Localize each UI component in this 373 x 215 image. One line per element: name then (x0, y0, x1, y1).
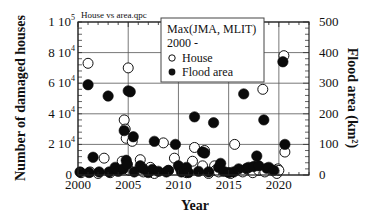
house-point (158, 138, 168, 148)
flood-area-point (199, 148, 209, 158)
x-tick-labels: 20002005201020152020 (65, 177, 292, 192)
y2-tick-label: 300 (319, 75, 339, 90)
y2-axis-title: Flood area (km²) (344, 48, 360, 149)
flood-area-point (239, 89, 249, 99)
house-point (258, 84, 268, 94)
legend-title-line1: Max(JMA, MLIT) (167, 22, 256, 36)
house-point (119, 115, 129, 125)
x-tick-label: 2010 (165, 177, 191, 192)
flood-area-point (83, 80, 93, 90)
house-point (99, 153, 109, 163)
flood-area-point (149, 136, 159, 146)
flood-area-point (208, 117, 218, 127)
y2-tick-label: 400 (319, 45, 339, 60)
flood-area-point (189, 112, 199, 122)
legend-filled-circle-icon (169, 69, 176, 76)
x-axis-title: Year (181, 198, 209, 213)
x-tick-label: 2015 (216, 177, 242, 192)
house-point (123, 63, 133, 73)
legend-entry-flood-area: Flood area (182, 65, 234, 79)
y2-tick-label: 200 (319, 106, 339, 121)
flood-area-point (170, 139, 180, 149)
y-axis-title: Number of damaged houses (13, 15, 28, 181)
legend: Max(JMA, MLIT) 2000 - House Flood area (161, 18, 264, 82)
y-tick-label: 8 104 (48, 44, 75, 60)
y-tick-label: 2 104 (48, 135, 75, 151)
flood-area-point (103, 91, 113, 101)
flood-area-point (128, 132, 138, 142)
flood-area-point (119, 125, 129, 135)
y-tick-labels: 02 1044 1046 1048 1041 105 (48, 13, 75, 182)
legend-open-circle-icon (169, 55, 175, 61)
y-tick-label: 1 105 (48, 13, 75, 29)
y2-tick-label: 500 (319, 14, 339, 29)
y2-tick-label: 0 (319, 167, 326, 182)
flood-area-point (252, 151, 262, 161)
scatter-chart: 20002005201020152020 02 1044 1046 1048 1… (0, 0, 373, 215)
x-tick-label: 2020 (266, 177, 292, 192)
flood-area-point (125, 87, 135, 97)
legend-entry-house: House (182, 51, 213, 65)
house-point (83, 58, 93, 68)
x-tick-label: 2005 (115, 177, 141, 192)
y-tick-label: 6 104 (48, 74, 75, 90)
flood-area-point (280, 139, 290, 149)
chart-title: House vs area.qpc (81, 10, 147, 20)
y-tick-label: 0 (66, 167, 73, 182)
flood-area-point (88, 152, 98, 162)
flood-area-point (259, 115, 269, 125)
y2-tick-label: 100 (319, 136, 339, 151)
y-tick-label: 4 104 (48, 105, 75, 121)
legend-title-line2: 2000 - (167, 36, 198, 50)
house-point (230, 139, 240, 149)
flood-area-point (278, 57, 288, 67)
y2-tick-labels: 0100200300400500 (319, 14, 339, 182)
flood-area-point (269, 165, 279, 175)
